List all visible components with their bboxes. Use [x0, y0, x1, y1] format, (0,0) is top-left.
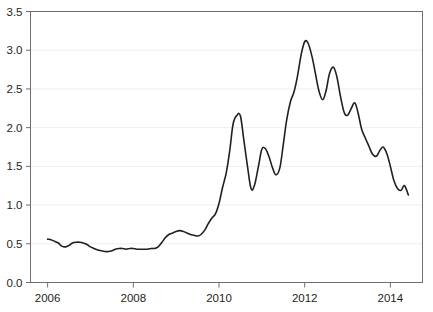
y-tick-label-2.5: 2.5	[7, 83, 23, 95]
y-tick-label-1.5: 1.5	[7, 160, 23, 172]
x-tick-label-2012: 2012	[292, 292, 318, 304]
chart-background	[0, 0, 433, 312]
x-tick-label-2010: 2010	[206, 292, 232, 304]
y-tick-label-3.0: 3.0	[7, 44, 23, 56]
chart-figure: 0.00.51.01.52.02.53.03.5 200620082010201…	[0, 0, 433, 312]
x-tick-label-2006: 2006	[35, 292, 61, 304]
line-chart-svg: 0.00.51.01.52.02.53.03.5 200620082010201…	[0, 0, 433, 312]
y-tick-label-0.0: 0.0	[7, 277, 23, 289]
y-tick-label-3.5: 3.5	[7, 6, 23, 18]
y-tick-label-2.0: 2.0	[7, 122, 23, 134]
x-tick-label-2008: 2008	[121, 292, 147, 304]
x-tick-label-2014: 2014	[378, 292, 404, 304]
y-tick-label-0.5: 0.5	[7, 238, 23, 250]
y-tick-label-1.0: 1.0	[7, 199, 23, 211]
